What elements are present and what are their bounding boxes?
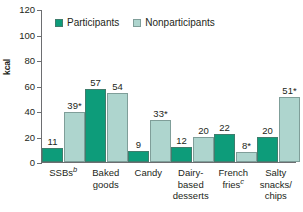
bar-slot: 11 [42,10,63,162]
x-axis-category-label: SSBsb [42,167,85,202]
bar-groups: 1139*5754933*1220228*2051* [42,10,296,162]
bar-slot: 20 [193,10,214,162]
y-tick-label: 120 [19,4,35,15]
bar-participants [85,89,106,162]
bar-nonparticipants [236,152,257,162]
x-axis-category-labels: SSBsbBakedgoodsCandyDairy-baseddessertsF… [42,167,297,202]
bar-value-label: 20 [198,125,209,136]
bar-slot: 39* [64,10,85,162]
x-axis-line [41,162,296,163]
bar-slot: 51* [279,10,300,162]
bar-value-label: 20 [262,125,273,136]
y-tick-mark [37,163,41,164]
bar-value-label: 9 [136,139,141,150]
bar-chart: kcal 020406080100120 1139*5754933*122022… [0,0,303,212]
bar-value-label: 11 [48,136,58,147]
bar-slot: 54 [107,10,128,162]
legend-item-nonparticipants: Nonparticipants [133,17,214,28]
bar-nonparticipants [193,137,214,163]
bar-slot: 8* [236,10,257,162]
bar-slot: 12 [171,10,192,162]
bar-participants [214,134,235,162]
bar-nonparticipants [64,112,85,162]
bar-group: 228* [214,10,257,162]
bar-participants [257,137,278,163]
bar-value-label: 51* [282,85,296,96]
bar-participants [42,148,63,162]
bar-value-label: 57 [90,77,101,88]
legend-swatch-nonparticipants-icon [133,19,141,27]
bar-group: 1139* [42,10,85,162]
x-axis-category-label: Candy [127,167,170,202]
bar-nonparticipants [279,97,300,162]
bar-slot: 57 [85,10,106,162]
bar-value-label: 33* [153,108,167,119]
x-axis-category-label: Bakedgoods [85,167,128,202]
y-tick-label: 80 [24,55,35,66]
bar-group: 5754 [85,10,128,162]
bar-participants [128,151,149,162]
x-axis-category-label: Saltysnacks/chips [255,167,298,202]
bar-value-label: 12 [176,135,187,146]
y-tick-label: 100 [19,30,35,41]
bar-group: 933* [128,10,171,162]
y-axis-title: kcal [2,47,12,87]
bar-slot: 33* [150,10,171,162]
bar-slot: 22 [214,10,235,162]
y-tick-label: 0 [30,157,35,168]
y-tick-mark [37,112,41,113]
bar-value-label: 39* [67,100,81,111]
y-tick-mark [37,87,41,88]
bar-participants [171,147,192,162]
plot-area: 020406080100120 1139*5754933*1220228*205… [41,10,296,163]
footnote-marker: c [240,176,244,185]
y-tick: 0 [41,163,45,164]
bar-slot: 20 [257,10,278,162]
legend-item-participants: Participants [55,17,119,28]
bar-value-label: 54 [112,81,123,92]
footnote-marker: b [73,165,77,174]
y-tick-label: 40 [24,106,35,117]
bar-group: 1220 [171,10,214,162]
bar-slot: 9 [128,10,149,162]
y-tick-mark [37,36,41,37]
bar-value-label: 8* [242,140,251,151]
bar-nonparticipants [150,120,171,162]
legend-swatch-participants-icon [55,19,63,27]
y-tick-mark [37,138,41,139]
bar-value-label: 22 [219,122,230,133]
bar-group: 2051* [257,10,300,162]
y-tick-label: 60 [24,81,35,92]
legend: Participants Nonparticipants [55,17,224,28]
legend-label-nonparticipants: Nonparticipants [145,17,214,28]
legend-label-participants: Participants [67,17,119,28]
bar-nonparticipants [107,93,128,162]
x-axis-category-label: Frenchfriesc [212,167,255,202]
y-tick-label: 20 [24,132,35,143]
y-tick-mark [37,61,41,62]
y-tick-mark [37,10,41,11]
x-axis-category-label: Dairy-baseddesserts [170,167,213,202]
